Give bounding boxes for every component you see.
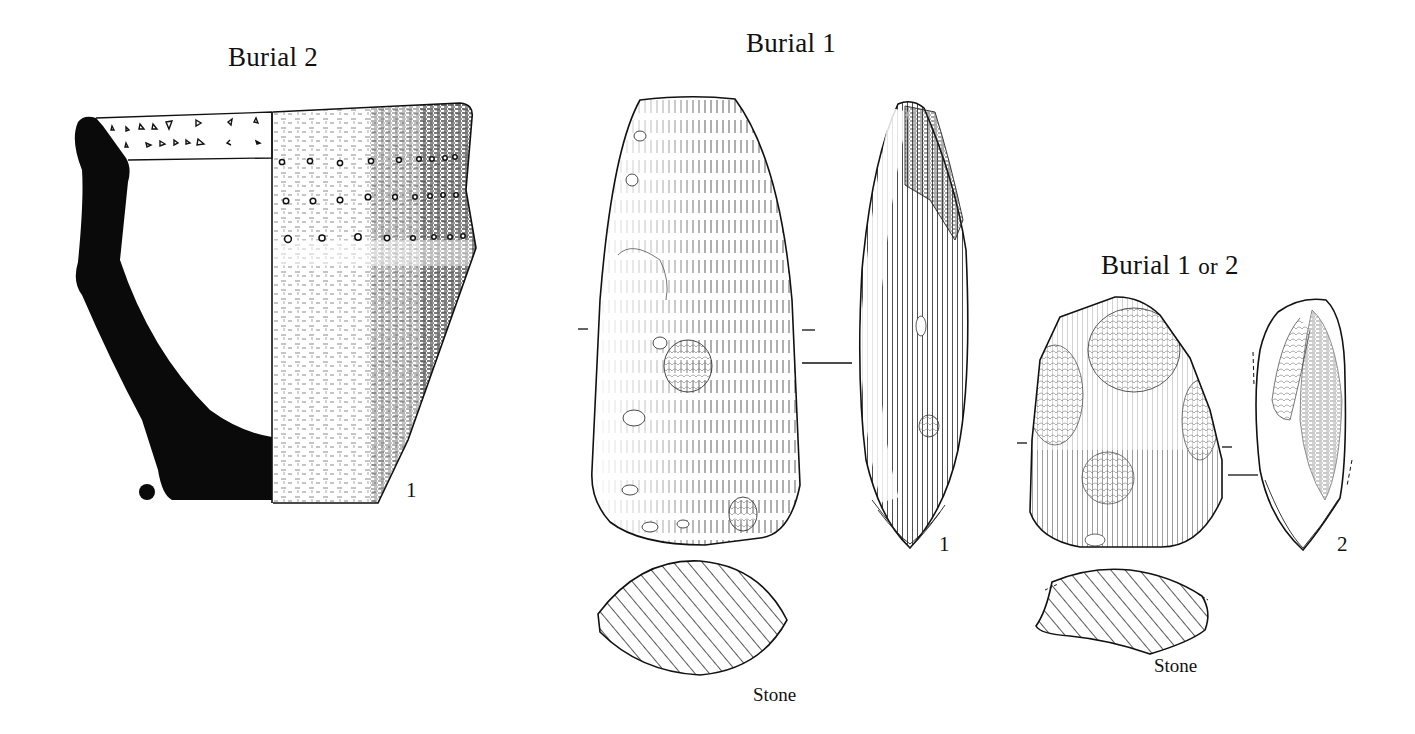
section-dot: [139, 484, 155, 500]
pot-profile-section: [75, 117, 272, 500]
axe-side-view: [860, 102, 968, 548]
axe-cross-section: [598, 561, 787, 675]
rim-impressions: [111, 118, 260, 147]
figure-drawings: [0, 0, 1415, 734]
axe-face-view: [585, 90, 805, 550]
pot-drawing: [75, 100, 482, 510]
tool-cross-section: [1036, 569, 1208, 654]
tool-face-view: [1025, 290, 1230, 555]
tool-side-view: [1253, 299, 1352, 550]
